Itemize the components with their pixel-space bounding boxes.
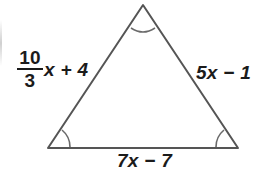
fraction-ten-thirds: 10 3: [17, 48, 43, 90]
fraction-denominator: 3: [24, 70, 37, 90]
side-label-left: 10 3 x + 4: [17, 48, 88, 90]
left-label-tail: x + 4: [44, 60, 88, 79]
geometry-figure: 10 3 x + 4 5x − 1 7x − 7: [0, 0, 270, 175]
side-label-right: 5x − 1: [196, 63, 251, 82]
fraction-numerator: 10: [18, 48, 42, 68]
side-label-bottom: 7x − 7: [117, 151, 172, 170]
